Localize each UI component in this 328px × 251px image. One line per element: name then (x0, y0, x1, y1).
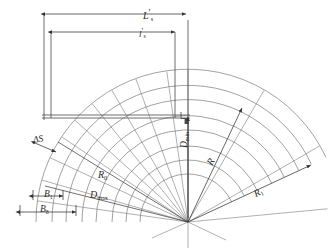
radial-line-family (38, 70, 328, 248)
dim-line-Dmax (45, 186, 188, 222)
label-ls-sub: s (143, 33, 145, 39)
arc-inner-3 (112, 146, 257, 222)
arc-outer-2 (52, 85, 311, 222)
arc-inner-1 (140, 174, 232, 222)
label-B1: B1 (44, 190, 53, 201)
label-Dmin: Dmin (180, 132, 191, 148)
label-R0: R0 (98, 170, 107, 181)
label-Ls-prime: L′s (143, 9, 153, 22)
diagram-vector-layer (0, 0, 328, 251)
label-B1-sub: 1 (50, 194, 53, 200)
dim-line-R0 (58, 142, 188, 222)
dim-line-R1 (188, 165, 311, 222)
label-ls-prime: l′s (139, 27, 146, 40)
radial-line-lower-right (188, 222, 226, 240)
label-B8: B8 (40, 205, 49, 216)
radial-line-lower-left (152, 222, 188, 238)
radial-line-196 (42, 180, 188, 222)
diagram-canvas: L′s l′s ΔS B1 B8 R0 Dmax Dmin R R1 (0, 0, 328, 251)
label-delta-S: ΔS (32, 134, 44, 145)
radial-line-250 (136, 79, 188, 222)
radial-line-355 (188, 209, 328, 222)
dim-line-R (188, 108, 242, 222)
radial-line-214 (62, 137, 188, 222)
label-Ls-sub: s (151, 15, 153, 22)
label-Dmin-base: D (179, 141, 189, 148)
label-Dmin-sub: min (184, 132, 190, 141)
label-Dmax: Dmax (90, 190, 108, 201)
arc-inner-2 (126, 160, 244, 222)
label-Dmax-sub: max (97, 194, 108, 201)
radial-line-222 (75, 120, 188, 222)
label-R0-sub: 0 (104, 174, 107, 181)
label-B8-sub: 8 (46, 209, 49, 215)
